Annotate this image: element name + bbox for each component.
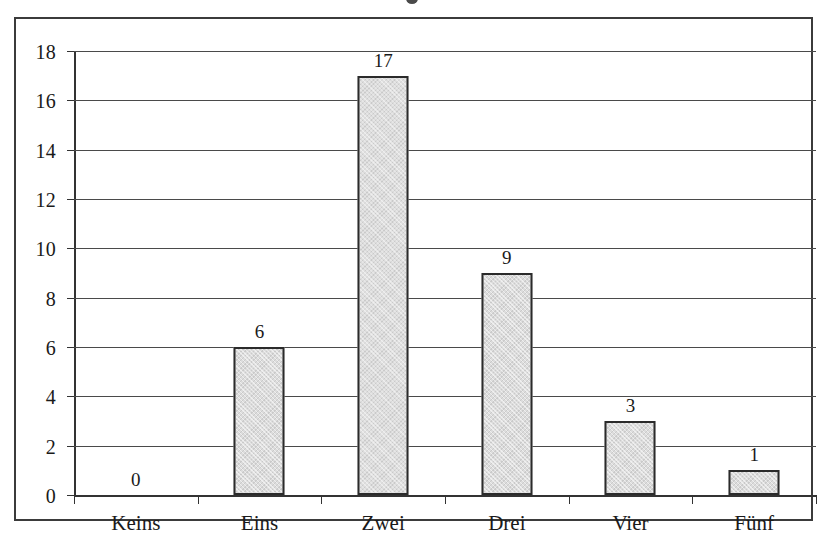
bar-category: 6Eins: [198, 51, 322, 495]
y-axis-tick: 0: [67, 495, 74, 496]
y-axis-tick-label: 10: [35, 239, 56, 259]
bar-chart-figure: 024681012141618 0Keins6Eins17Zwei9Drei3V…: [0, 0, 828, 539]
bar[interactable]: [358, 76, 409, 495]
y-axis-tick-label: 4: [46, 387, 56, 407]
x-axis-category-label: Fünf: [734, 513, 774, 534]
bar-value-label: 6: [255, 322, 265, 341]
y-axis-tick: 16: [67, 100, 74, 101]
chart-outer-frame: 024681012141618 0Keins6Eins17Zwei9Drei3V…: [14, 17, 813, 521]
x-axis-category-label: Eins: [241, 513, 278, 534]
bar-category: 17Zwei: [321, 51, 445, 495]
x-axis-tick: [445, 495, 446, 504]
bar-value-label: 3: [626, 396, 636, 415]
y-axis-tick-label: 2: [46, 437, 56, 457]
bar-category: 0Keins: [74, 51, 198, 495]
y-axis-tick: 6: [67, 347, 74, 348]
x-axis-tick: [321, 495, 322, 504]
bar-value-label: 9: [502, 248, 512, 267]
bar-value-label: 1: [749, 445, 759, 464]
y-axis-tick: 10: [67, 248, 74, 249]
y-axis-tick-label: 14: [35, 141, 56, 161]
y-axis-tick-label: 8: [46, 289, 56, 309]
cropped-title-fragment: [406, 0, 418, 4]
plot-area: 024681012141618 0Keins6Eins17Zwei9Drei3V…: [74, 51, 816, 495]
bar[interactable]: [234, 347, 285, 495]
bar-category: 3Vier: [569, 51, 693, 495]
bar[interactable]: [729, 470, 780, 495]
y-axis-tick-label: 12: [35, 190, 56, 210]
bar-category: 9Drei: [445, 51, 569, 495]
y-axis-tick: 8: [67, 298, 74, 299]
y-axis-tick-label: 16: [35, 91, 56, 111]
y-axis-tick-label: 6: [46, 338, 56, 358]
y-axis-tick: 12: [67, 199, 74, 200]
x-axis-tick: [198, 495, 199, 504]
y-axis-tick-label: 18: [35, 42, 56, 62]
x-axis-category-label: Keins: [111, 513, 160, 534]
y-axis-tick: 18: [67, 51, 74, 52]
bar-category: 1Fünf: [692, 51, 816, 495]
x-axis-category-label: Vier: [612, 513, 648, 534]
x-axis-category-label: Zwei: [362, 513, 405, 534]
y-axis-tick: 2: [67, 446, 74, 447]
y-axis-tick-label: 0: [46, 486, 56, 506]
bar-value-label: 17: [374, 51, 393, 70]
y-axis-tick: 14: [67, 150, 74, 151]
bar[interactable]: [605, 421, 656, 495]
bar-value-label: 0: [131, 470, 141, 489]
bar[interactable]: [481, 273, 532, 495]
x-axis-tick: [569, 495, 570, 504]
x-axis-category-label: Drei: [488, 513, 525, 534]
x-axis-tick: [816, 495, 817, 504]
x-axis-tick: [74, 495, 75, 504]
x-axis-tick: [692, 495, 693, 504]
y-axis-tick: 4: [67, 396, 74, 397]
